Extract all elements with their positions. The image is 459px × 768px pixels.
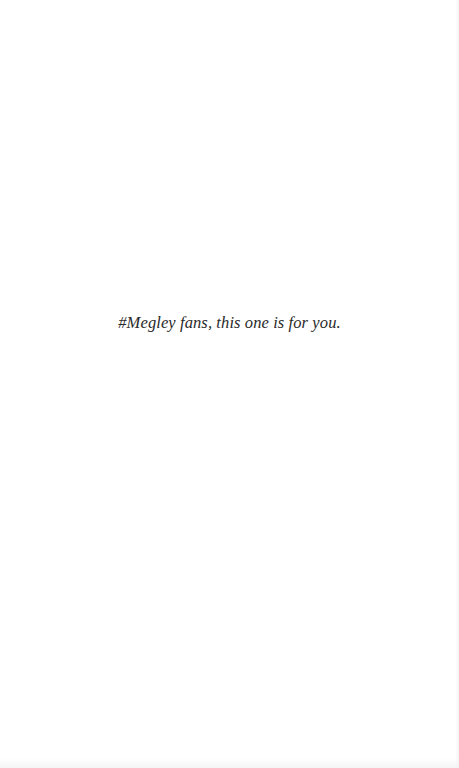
- dedication-text: #Megley fans, this one is for you.: [0, 313, 459, 333]
- page-edge-right: [455, 0, 459, 768]
- page-edge-bottom: [0, 758, 459, 768]
- book-page: #Megley fans, this one is for you.: [0, 0, 459, 768]
